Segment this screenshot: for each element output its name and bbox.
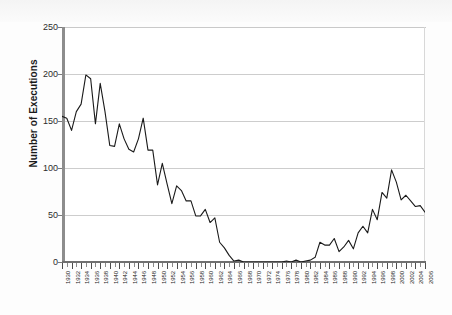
x-tick-2005 xyxy=(420,263,421,267)
x-tick-1981 xyxy=(306,263,307,267)
x-tick-label-1998: 1998 xyxy=(390,271,396,284)
x-tick-1937 xyxy=(95,263,96,267)
x-tick-1949 xyxy=(153,263,154,267)
x-tick-1934 xyxy=(81,263,82,269)
x-tick-label-1994: 1994 xyxy=(371,271,377,284)
x-tick-1932 xyxy=(72,263,73,269)
x-tick-1936 xyxy=(91,263,92,269)
x-tick-1973 xyxy=(267,263,268,267)
x-tick-1961 xyxy=(210,263,211,267)
x-tick-label-1988: 1988 xyxy=(342,271,348,284)
x-tick-1935 xyxy=(86,263,87,267)
x-tick-1998 xyxy=(387,263,388,269)
x-tick-1969 xyxy=(248,263,249,267)
x-tick-1987 xyxy=(334,263,335,267)
x-tick-1948 xyxy=(148,263,149,269)
x-tick-1938 xyxy=(100,263,101,269)
x-tick-1946 xyxy=(138,263,139,269)
x-tick-label-1930: 1930 xyxy=(65,271,71,284)
x-tick-label-1934: 1934 xyxy=(84,271,90,284)
x-tick-label-1984: 1984 xyxy=(323,271,329,284)
x-tick-label-1932: 1932 xyxy=(75,271,81,284)
x-tick-label-1978: 1978 xyxy=(294,271,300,284)
x-tick-label-1982: 1982 xyxy=(313,271,319,284)
x-tick-label-1950: 1950 xyxy=(161,271,167,284)
x-tick-label-1980: 1980 xyxy=(304,271,310,284)
chart-figure: 050100150200250 193019321934193619381940… xyxy=(0,0,452,315)
x-tick-1972 xyxy=(263,263,264,269)
x-tick-1963 xyxy=(220,263,221,267)
x-tick-1939 xyxy=(105,263,106,267)
x-tick-label-1944: 1944 xyxy=(132,271,138,284)
x-tick-1979 xyxy=(296,263,297,267)
x-tick-2003 xyxy=(411,263,412,267)
x-tick-1999 xyxy=(392,263,393,267)
x-tick-1941 xyxy=(115,263,116,267)
x-tick-2001 xyxy=(401,263,402,267)
x-tick-1984 xyxy=(320,263,321,269)
x-tick-1930 xyxy=(62,263,63,269)
y-tick-label-0: 0 xyxy=(32,258,58,267)
x-tick-1996 xyxy=(377,263,378,269)
x-tick-1986 xyxy=(329,263,330,269)
x-tick-label-1942: 1942 xyxy=(122,271,128,284)
x-tick-1931 xyxy=(67,263,68,267)
x-tick-1982 xyxy=(310,263,311,269)
x-tick-label-1970: 1970 xyxy=(256,271,262,284)
x-tick-1971 xyxy=(258,263,259,267)
x-tick-label-1964: 1964 xyxy=(227,271,233,284)
x-tick-2006 xyxy=(425,263,426,269)
x-tick-2000 xyxy=(396,263,397,269)
x-tick-1977 xyxy=(286,263,287,267)
x-tick-label-1976: 1976 xyxy=(285,271,291,284)
x-tick-1995 xyxy=(372,263,373,267)
x-tick-1943 xyxy=(124,263,125,267)
y-axis-title: Number of Executions xyxy=(28,29,39,199)
x-tick-label-1968: 1968 xyxy=(247,271,253,284)
x-tick-1993 xyxy=(363,263,364,267)
x-tick-1944 xyxy=(129,263,130,269)
x-tick-label-1966: 1966 xyxy=(237,271,243,284)
x-tick-1978 xyxy=(291,263,292,269)
x-tick-label-1952: 1952 xyxy=(170,271,176,284)
x-tick-label-2004: 2004 xyxy=(418,271,424,284)
x-tick-1990 xyxy=(349,263,350,269)
x-tick-1955 xyxy=(181,263,182,267)
x-tick-1964 xyxy=(224,263,225,269)
x-tick-label-1986: 1986 xyxy=(332,271,338,284)
x-tick-1957 xyxy=(191,263,192,267)
x-tick-label-1972: 1972 xyxy=(266,271,272,284)
x-tick-label-1992: 1992 xyxy=(361,271,367,284)
x-tick-1974 xyxy=(272,263,273,269)
x-tick-1960 xyxy=(205,263,206,269)
x-tick-1956 xyxy=(186,263,187,269)
x-tick-1940 xyxy=(110,263,111,269)
x-tick-1992 xyxy=(358,263,359,269)
data-series-executions xyxy=(62,27,425,262)
x-tick-label-1948: 1948 xyxy=(151,271,157,284)
x-tick-1988 xyxy=(339,263,340,269)
x-tick-1970 xyxy=(253,263,254,269)
x-tick-label-1958: 1958 xyxy=(199,271,205,284)
x-tick-1959 xyxy=(201,263,202,267)
x-tick-label-1938: 1938 xyxy=(103,271,109,284)
x-tick-label-1974: 1974 xyxy=(275,271,281,284)
x-tick-1954 xyxy=(177,263,178,269)
x-tick-2004 xyxy=(415,263,416,269)
x-tick-label-1960: 1960 xyxy=(208,271,214,284)
paper-background xyxy=(0,0,452,22)
x-tick-1952 xyxy=(167,263,168,269)
x-tick-label-1996: 1996 xyxy=(380,271,386,284)
x-tick-1951 xyxy=(162,263,163,267)
x-tick-1985 xyxy=(325,263,326,267)
x-tick-1983 xyxy=(315,263,316,267)
x-tick-1997 xyxy=(382,263,383,267)
x-tick-label-1990: 1990 xyxy=(352,271,358,284)
x-tick-1980 xyxy=(301,263,302,269)
x-tick-1953 xyxy=(172,263,173,267)
x-tick-1967 xyxy=(239,263,240,267)
x-tick-1965 xyxy=(229,263,230,267)
x-tick-label-2002: 2002 xyxy=(409,271,415,284)
x-tick-label-1962: 1962 xyxy=(218,271,224,284)
x-tick-1945 xyxy=(134,263,135,267)
